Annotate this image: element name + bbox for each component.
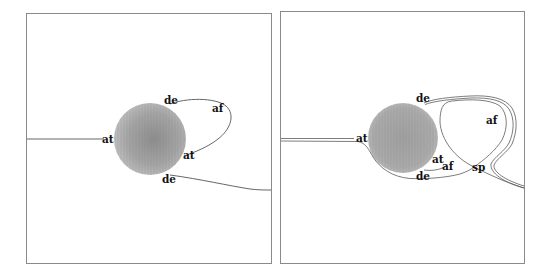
label-detachment-top: de — [164, 94, 178, 106]
sphere — [114, 103, 186, 175]
sphere — [368, 103, 438, 173]
label-detachment-top: de — [416, 92, 430, 104]
label-attachment-rear: at — [183, 149, 195, 161]
label-detachment-bottom: de — [162, 173, 176, 185]
streamline-detachment-downstream — [170, 175, 271, 190]
label-attracting-focus-large: af — [486, 114, 499, 126]
label-attracting-focus: af — [212, 102, 225, 114]
label-saddle-point: sp — [472, 161, 485, 173]
label-attachment-front: at — [102, 133, 114, 145]
panel-left — [27, 14, 272, 264]
label-attachment-front: at — [356, 132, 368, 144]
streamline-upper-inner — [425, 98, 524, 188]
label-detachment-bottom: de — [416, 170, 430, 182]
label-attracting-focus-small: af — [442, 160, 455, 172]
flow-diagram: de af at at de de af at at af de sp — [0, 0, 552, 274]
panel-right — [281, 12, 525, 264]
